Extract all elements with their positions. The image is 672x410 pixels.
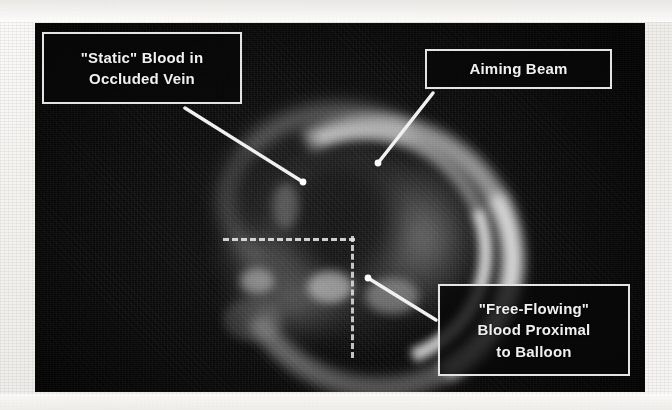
leader-line-static-blood: [185, 108, 303, 182]
callout-aiming-beam: Aiming Beam: [425, 49, 612, 89]
scan-edge-top: [0, 0, 672, 22]
proximal-blood-glow-mid: [195, 213, 335, 303]
dashed-guide-horizontal: [223, 238, 355, 241]
callout-static-blood-line-1: "Static" Blood in: [81, 47, 204, 68]
dashed-guide-vertical: [351, 236, 354, 358]
leader-line-aiming-beam: [378, 93, 433, 163]
callout-aiming-beam-line-1: Aiming Beam: [469, 58, 567, 79]
ring-arc-upper-left: [208, 91, 462, 301]
glow-hotspot: [273, 183, 299, 229]
leader-endpoint-free-flowing-blood: [365, 275, 372, 282]
figure-page: "Static" Blood in Occluded Vein Aiming B…: [0, 0, 672, 410]
callout-static-blood: "Static" Blood in Occluded Vein: [42, 32, 242, 104]
callout-free-flowing-blood: "Free-Flowing" Blood Proximal to Balloon: [438, 284, 630, 376]
scan-edge-bottom: [0, 394, 672, 410]
glow-hotspot: [365, 278, 419, 314]
callout-static-blood-line-2: Occluded Vein: [89, 68, 195, 89]
glow-hotspot: [240, 268, 274, 294]
glow-hotspot: [307, 271, 353, 303]
callout-free-flowing-blood-line-2: Blood Proximal: [478, 319, 591, 340]
callout-free-flowing-blood-line-3: to Balloon: [496, 341, 571, 362]
leader-line-free-flowing-blood: [368, 278, 436, 320]
leader-endpoint-aiming-beam: [375, 160, 382, 167]
leader-endpoint-static-blood: [300, 179, 307, 186]
callout-free-flowing-blood-line-1: "Free-Flowing": [479, 298, 589, 319]
glow-hotspot: [223, 298, 283, 342]
occluded-vein-dark-core: [267, 145, 415, 305]
